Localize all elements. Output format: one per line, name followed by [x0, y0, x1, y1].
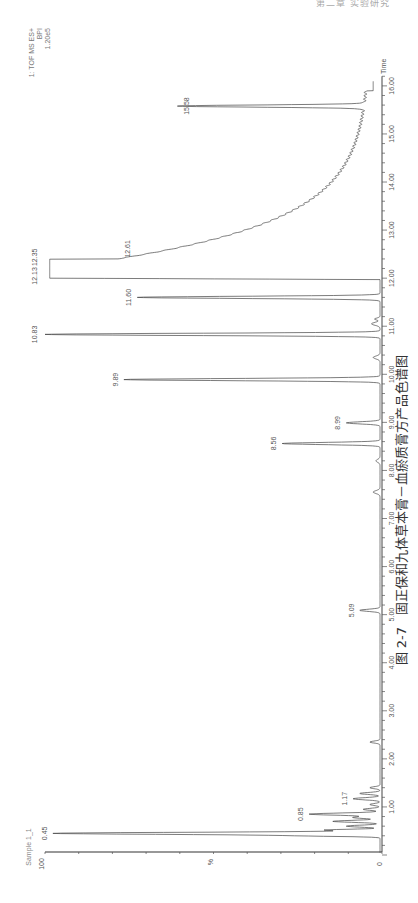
time-tick-label: 13.00 [388, 221, 395, 239]
peak-label: 8.99 [334, 416, 341, 430]
peak-label: 12.13 [31, 267, 38, 285]
peak-label: 5.09 [348, 603, 355, 617]
peak-label: 12.61 [124, 240, 131, 258]
intensity-axis-title: % [207, 859, 214, 865]
time-tick-label: 12.00 [388, 269, 395, 287]
figure-caption: 图 2-7 固正保和九体草本膏－血瘀质膏方产品色谱图 [378, 310, 418, 710]
peak-label: 1.17 [341, 792, 348, 806]
peak-label: 11.60 [125, 289, 132, 306]
caption-title: 固正保和九体草本膏－血瘀质膏方产品色谱图 [394, 355, 409, 615]
peak-label: 12.35 [31, 248, 38, 266]
detector-info-line: BPI [36, 28, 43, 39]
sample-name-label: Sample 1_1 [25, 828, 33, 865]
time-tick-label: 2.00 [388, 752, 395, 766]
peak-label: 10.83 [31, 326, 38, 344]
time-tick-label: 15.00 [388, 125, 395, 143]
detector-info-line: 1.20e5 [44, 28, 51, 50]
caption-text: 图 2-7 固正保和九体草本膏－血瘀质膏方产品色谱图 [391, 355, 410, 666]
peak-label: 0.85 [297, 807, 304, 821]
time-tick-label: 16.00 [388, 77, 395, 95]
peak-label: 8.56 [270, 437, 277, 451]
detector-info-line: 1: TOF MS ES+ [28, 28, 35, 77]
time-axis-title: Time [380, 59, 387, 74]
peak-label: 9.89 [112, 373, 119, 387]
caption-number: 图 2-7 [394, 627, 409, 665]
chromatogram-chart: 1.002.003.004.005.006.007.008.009.0010.0… [0, 0, 418, 903]
intensity-zero-label: 0 [376, 862, 383, 866]
peak-label: 15.58 [183, 97, 190, 115]
time-tick-label: 1.00 [388, 800, 395, 814]
intensity-max-label: 100 [38, 858, 45, 870]
peak-label: 0.45 [41, 826, 48, 840]
time-tick-label: 14.00 [388, 173, 395, 191]
chromatogram-trace [45, 81, 380, 852]
